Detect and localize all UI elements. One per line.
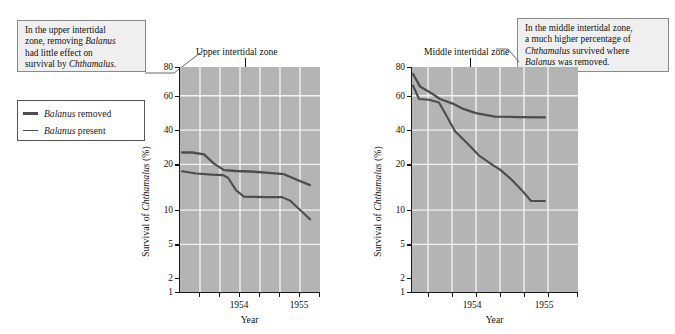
x-tick-1-upper — [199, 293, 200, 297]
x-axis-title-middle: Year — [411, 314, 578, 325]
series-middle-balanus-present — [413, 86, 545, 202]
legend: Balanus removed Balanus present — [17, 100, 145, 141]
y-tick-40-upper — [175, 130, 179, 131]
x-tick-3-middle — [476, 293, 477, 297]
y-label-1-upper: 1 — [144, 288, 173, 297]
x-label-1955-middle: 1955 — [524, 300, 564, 310]
y-tick-40-middle — [407, 130, 411, 131]
plot-svg-middle — [412, 67, 578, 292]
callout-right-line1: In the middle intertidal zone, — [525, 23, 633, 33]
y-label-2-middle: 2 — [376, 274, 405, 283]
y-tick-20-middle — [407, 164, 411, 165]
x-tick-6-upper — [299, 293, 300, 297]
plot-area-middle — [412, 67, 578, 292]
x-axis-middle — [411, 292, 578, 293]
y-tick-10-middle — [407, 210, 411, 211]
gridlines-middle — [412, 67, 578, 292]
x-tick-2-upper — [219, 293, 220, 297]
y-tick-1-middle — [407, 292, 411, 293]
plot-svg-upper — [180, 67, 320, 292]
y-tick-60-upper — [175, 96, 179, 97]
figure-container: In the upper intertidal zone, removing B… — [0, 0, 675, 334]
x-label-1954-upper: 1954 — [219, 300, 259, 310]
y-tick-2-upper — [175, 278, 179, 279]
y-axis-title-middle: Survival of Chthamalus (%) — [372, 146, 383, 257]
x-tick-4-middle — [500, 293, 501, 297]
callout-left-line3: had little effect on — [25, 48, 93, 58]
y-label-80-middle: 80 — [376, 63, 405, 72]
y-label-60-middle: 60 — [376, 92, 405, 101]
y-tick-60-middle — [407, 96, 411, 97]
y-label-60-upper: 60 — [144, 92, 173, 101]
x-label-1955-upper: 1955 — [279, 300, 319, 310]
legend-line-icon-removed — [23, 112, 38, 114]
y-axis-upper — [179, 67, 180, 292]
y-tick-5-middle — [407, 244, 411, 245]
y-axis-title-upper: Survival of Chthamalus (%) — [140, 146, 151, 257]
callout-left-line4a: survival by — [25, 59, 69, 69]
legend-label-removed-rest: removed — [75, 108, 111, 119]
legend-line-icon-present — [23, 130, 38, 132]
plot-area-upper — [180, 67, 320, 292]
callout-left-line2-italic: Balanus — [85, 36, 115, 46]
upper-zone-callout: In the upper intertidal zone, removing B… — [17, 20, 146, 72]
y-tick-1-upper — [175, 292, 179, 293]
callout-left-line4b: . — [114, 59, 116, 69]
y-tick-20-upper — [175, 164, 179, 165]
y-tick-5-upper — [175, 244, 179, 245]
chart-middle-intertidal: 80 60 40 20 10 5 2 1 1954 1955 Year Surv… — [374, 62, 586, 302]
callout-right-line2: a much higher percentage of — [525, 34, 631, 44]
y-label-1-middle: 1 — [376, 288, 405, 297]
x-tick-2-middle — [452, 293, 453, 297]
x-tick-7-upper — [319, 293, 320, 297]
series-upper-balanus-removed — [182, 153, 310, 186]
x-tick-5-middle — [524, 293, 525, 297]
y-tick-80-upper — [175, 67, 179, 68]
x-tick-5-upper — [279, 293, 280, 297]
x-tick-4-upper — [259, 293, 260, 297]
y-axis-middle — [411, 67, 412, 292]
series-upper-balanus-present — [182, 171, 310, 219]
callout-left-line2a: zone, removing — [25, 36, 85, 46]
y-label-2-upper: 2 — [144, 274, 173, 283]
callout-left-line1: In the upper intertidal — [25, 25, 106, 35]
legend-label-present-italic: Balanus — [44, 125, 75, 136]
callout-right-line3-italic: Chthamalus — [525, 46, 570, 56]
x-tick-7-middle — [577, 293, 578, 297]
y-label-40-upper: 40 — [144, 126, 173, 135]
zone-label-middle: Middle intertidal zone — [424, 46, 509, 57]
y-tick-10-upper — [175, 210, 179, 211]
legend-label-present-rest: present — [75, 125, 105, 136]
chart-upper-intertidal: 80 60 40 20 10 5 2 1 1954 1955 Year Surv… — [142, 62, 327, 302]
y-tick-2-middle — [407, 278, 411, 279]
x-tick-3-upper — [239, 293, 240, 297]
callout-left-line4-italic: Chthamalus — [69, 59, 114, 69]
y-label-80-upper: 80 — [144, 63, 173, 72]
legend-item-balanus-removed: Balanus removed — [23, 105, 139, 122]
legend-label-removed-italic: Balanus — [44, 108, 75, 119]
legend-item-balanus-present: Balanus present — [23, 122, 139, 139]
x-tick-1-middle — [428, 293, 429, 297]
x-axis-title-upper: Year — [179, 314, 320, 325]
zone-label-upper: Upper intertidal zone — [196, 46, 278, 57]
callout-right-line3b: survived where — [570, 46, 629, 56]
x-label-1954-middle: 1954 — [452, 300, 492, 310]
x-tick-6-middle — [548, 293, 549, 297]
y-label-40-middle: 40 — [376, 126, 405, 135]
y-tick-80-middle — [407, 67, 411, 68]
